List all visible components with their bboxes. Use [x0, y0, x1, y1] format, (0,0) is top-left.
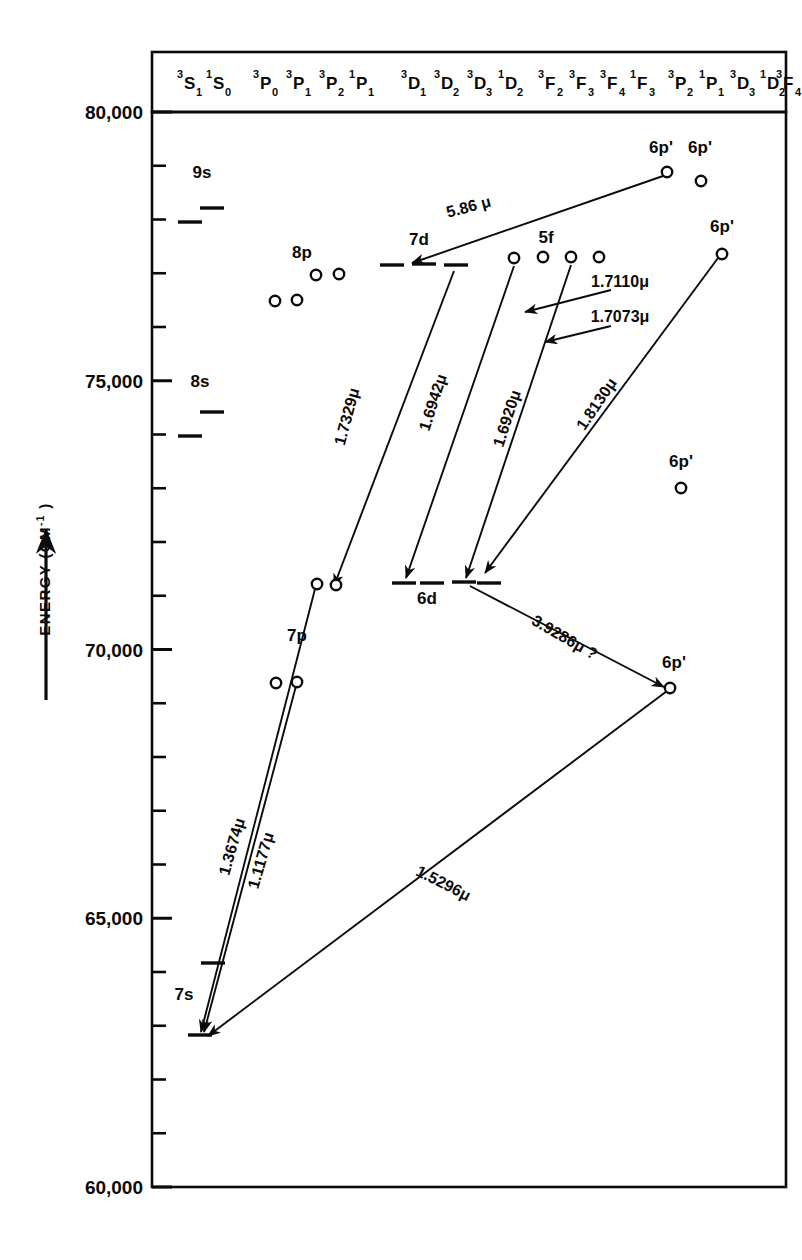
term-letter: D [408, 74, 420, 93]
term-symbol-3F2: 3F2 [538, 68, 563, 98]
term-letter: P [326, 74, 337, 93]
term-symbol-3D1: 3D1 [401, 68, 426, 98]
term-symbol-1P1: 1P1 [699, 68, 724, 98]
level-label-6p-prime-c: 6p' [710, 217, 734, 236]
term-superscript: 1 [206, 68, 212, 80]
energy-level-diagram: 3S11S03P03P13P21P13D13D23D31D23F23F33F41… [0, 0, 802, 1260]
transition-label-1.7110: 1.7110μ [591, 273, 649, 290]
term-letter: D [737, 74, 749, 93]
term-subscript: 1 [718, 86, 724, 98]
term-subscript: 2 [338, 86, 344, 98]
term-subscript: 1 [420, 86, 426, 98]
level-label-8p: 8p [292, 243, 312, 262]
level-label-7s: 7s [175, 985, 194, 1004]
term-symbol-1S0: 1S0 [206, 68, 231, 98]
term-letter: S [184, 74, 195, 93]
transition-label-1.7329: 1.7329μ [331, 386, 363, 447]
term-letter: P [260, 74, 271, 93]
term-symbol-3D3: 3D3 [730, 68, 755, 98]
energy-level-8p [311, 270, 321, 280]
term-subscript: 3 [486, 86, 492, 98]
transition-label-1.7073: 1.7073μ [591, 308, 650, 325]
term-symbol-3P1: 3P1 [286, 68, 311, 98]
term-superscript: 3 [467, 68, 473, 80]
term-symbol-3D2: 3D2 [434, 68, 459, 98]
energy-level-7p [292, 677, 302, 687]
transition-line-1.6920 [466, 265, 571, 578]
energy-level-8p [292, 295, 302, 305]
term-subscript: 1 [368, 86, 374, 98]
term-subscript: 3 [649, 86, 655, 98]
term-subscript: 4 [619, 86, 626, 98]
energy-level-5f [566, 252, 576, 262]
energy-level-7p [271, 678, 281, 688]
y-axis-tick-label: 60,000 [85, 1177, 143, 1198]
term-symbol-1F3: 1F3 [630, 68, 655, 98]
term-superscript: 3 [253, 68, 259, 80]
term-superscript: 1 [630, 68, 636, 80]
term-letter: F [783, 74, 793, 93]
energy-level-6p-prime-b [696, 176, 706, 186]
term-subscript: 4 [795, 86, 802, 98]
energy-level-6p-prime-a [662, 167, 672, 177]
y-axis-tick-label: 70,000 [85, 640, 143, 661]
term-subscript: 3 [588, 86, 594, 98]
transition-label-1.5296: 1.5296μ [413, 862, 473, 904]
level-label-8s: 8s [191, 372, 210, 391]
term-superscript: 3 [538, 68, 544, 80]
level-label-6p-prime-a: 6p' [649, 138, 673, 157]
level-label-7d: 7d [409, 230, 429, 249]
term-letter: P [293, 74, 304, 93]
level-label-6p-prime-e: 6p' [662, 653, 686, 672]
term-letter: S [213, 74, 224, 93]
level-label-6p-prime-d: 6p' [669, 452, 693, 471]
energy-level-7p [331, 580, 341, 590]
energy-level-5f [594, 252, 604, 262]
level-label-5f: 5f [538, 228, 553, 247]
term-superscript: 1 [498, 68, 504, 80]
term-superscript: 3 [434, 68, 440, 80]
term-letter: D [441, 74, 453, 93]
energy-level-8p [334, 269, 344, 279]
energy-level-6p-prime-d [676, 483, 686, 493]
term-superscript: 3 [177, 68, 183, 80]
term-superscript: 3 [319, 68, 325, 80]
term-subscript: 2 [517, 86, 523, 98]
term-symbol-3P0: 3P0 [253, 68, 278, 98]
term-superscript: 3 [401, 68, 407, 80]
term-superscript: 3 [600, 68, 606, 80]
term-symbol-3D3: 3D3 [467, 68, 492, 98]
term-letter: F [637, 74, 647, 93]
term-symbol-3P2: 3P2 [319, 68, 344, 98]
figure-stage: ENERGY (CM-1 ) 3S11S03P03P13P21P13D13D23… [0, 0, 802, 1260]
term-letter: P [675, 74, 686, 93]
term-letter: F [545, 74, 555, 93]
plot-frame [152, 52, 786, 1187]
term-letter: P [706, 74, 717, 93]
term-superscript: 1 [699, 68, 705, 80]
energy-level-7p [312, 579, 322, 589]
term-subscript: 1 [305, 86, 311, 98]
term-superscript: 3 [286, 68, 292, 80]
term-letter: D [474, 74, 486, 93]
term-superscript: 3 [730, 68, 736, 80]
energy-level-6p-prime-e [665, 683, 675, 693]
term-subscript: 1 [196, 86, 202, 98]
transition-label-5.86: 5.86 μ [444, 193, 492, 221]
term-symbol-3P2: 3P2 [668, 68, 693, 98]
term-superscript: 3 [569, 68, 575, 80]
term-subscript: 0 [225, 86, 231, 98]
transition-line-1.7073 [545, 326, 611, 342]
transition-label-1.6942: 1.6942μ [416, 372, 450, 433]
transition-line-1.3674 [201, 589, 315, 1032]
term-letter: F [607, 74, 617, 93]
level-label-6d: 6d [417, 589, 437, 608]
term-subscript: 0 [272, 86, 278, 98]
y-axis-tick-label: 75,000 [85, 371, 143, 392]
transition-line-1.5296 [208, 691, 667, 1036]
level-label-6p-prime-b: 6p' [688, 138, 712, 157]
term-symbol-1D2: 1D2 [498, 68, 523, 98]
transition-label-3.9286: 3.9286μ ? [529, 612, 601, 663]
energy-level-6p-prime-c [717, 249, 727, 259]
y-axis-tick-label: 80,000 [85, 102, 143, 123]
